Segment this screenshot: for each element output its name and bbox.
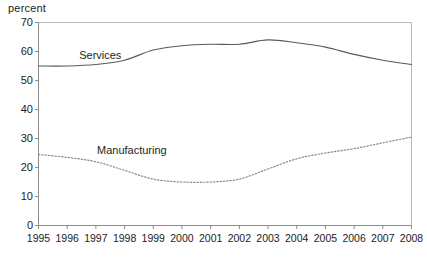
y-axis-tick-label: 60 <box>7 46 33 57</box>
y-axis-tick-label: 0 <box>7 220 33 231</box>
y-axis-tick-label: 40 <box>7 104 33 115</box>
x-axis-tick-label: 2008 <box>395 233 427 244</box>
y-axis-tick-label: 20 <box>7 162 33 173</box>
y-axis-tick-label: 70 <box>7 17 33 28</box>
chart-figure: percent 010203040506070 1995199619971998… <box>0 0 427 265</box>
y-axis-tick-marks <box>35 23 39 226</box>
y-axis-tick-label: 50 <box>7 75 33 86</box>
plot-canvas <box>0 0 427 265</box>
y-axis-tick-label: 30 <box>7 133 33 144</box>
series-annotation-manufacturing: Manufacturing <box>97 144 167 156</box>
y-axis-tick-label: 10 <box>7 191 33 202</box>
series-line-manufacturing <box>39 137 412 182</box>
series-annotation-services: Services <box>79 49 121 61</box>
x-axis-tick-marks <box>39 226 412 230</box>
